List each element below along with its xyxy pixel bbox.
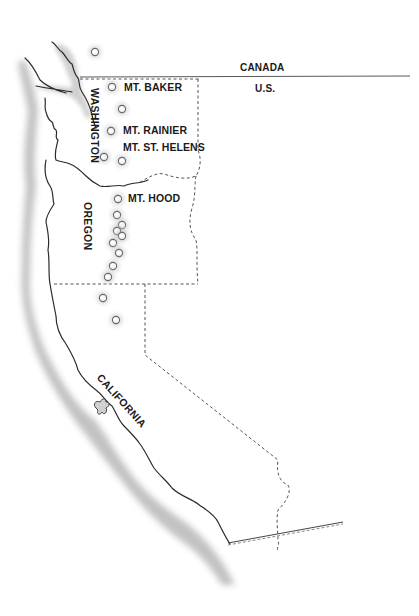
map-canvas bbox=[0, 0, 419, 616]
state-label-oregon: OREGON bbox=[83, 202, 94, 250]
volcano-icon bbox=[105, 309, 127, 331]
volcano-icon bbox=[92, 287, 114, 309]
volcano-icon bbox=[97, 266, 119, 288]
volcano-label-mt-baker: MT. BAKER bbox=[124, 82, 182, 93]
country-label-us: U.S. bbox=[255, 84, 275, 94]
state-label-washington: WASHINGTON bbox=[90, 88, 101, 163]
canada-us-border bbox=[80, 76, 410, 77]
volcano-label-mt-st-helens: MT. ST. HELENS bbox=[123, 142, 205, 153]
volcano-icon bbox=[101, 76, 123, 98]
volcano-label-mt-hood: MT. HOOD bbox=[128, 193, 180, 204]
mexico-border bbox=[228, 522, 343, 545]
volcano-icon bbox=[84, 41, 106, 63]
volcano-icon bbox=[111, 150, 133, 172]
country-label-canada: CANADA bbox=[240, 63, 285, 73]
volcano-icon bbox=[100, 120, 122, 142]
volcano-icon bbox=[111, 98, 133, 120]
volcano-label-mt-rainier: MT. RAINIER bbox=[123, 125, 187, 136]
